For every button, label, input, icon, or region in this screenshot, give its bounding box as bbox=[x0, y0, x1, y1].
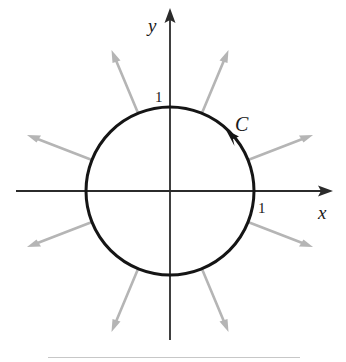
x-tick-label-1: 1 bbox=[258, 200, 266, 216]
figure-canvas: x y C 1 1 bbox=[0, 0, 346, 362]
vector-arrow-292deg bbox=[202, 269, 229, 332]
vector-arrow-202deg bbox=[27, 222, 92, 247]
x-axis bbox=[16, 186, 333, 197]
axes-group bbox=[16, 8, 333, 340]
y-axis-label: y bbox=[146, 15, 157, 36]
vector-arrow-158deg bbox=[27, 135, 92, 160]
vector-arrow-68deg bbox=[202, 50, 229, 113]
vector-arrow-338deg bbox=[248, 222, 313, 247]
curve-label-c: C bbox=[235, 113, 249, 135]
vector-field-diagram: x y C 1 1 bbox=[0, 0, 346, 362]
vector-arrow-22deg bbox=[248, 135, 313, 160]
vector-arrow-112deg bbox=[112, 50, 139, 113]
y-tick-label-1: 1 bbox=[155, 89, 163, 105]
vector-arrow-248deg bbox=[112, 269, 139, 332]
y-axis bbox=[165, 8, 176, 340]
x-axis-label: x bbox=[317, 202, 327, 223]
